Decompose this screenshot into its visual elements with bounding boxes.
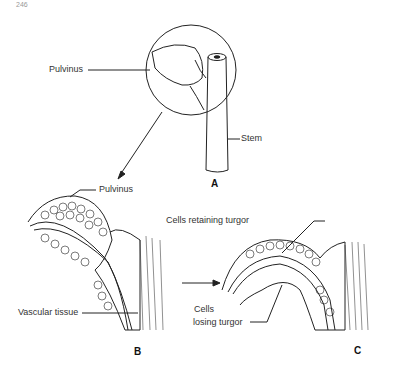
panel-label-a: A (211, 178, 218, 189)
panel-label-c: C (354, 345, 361, 356)
label-pulvinus-b: Pulvinus (99, 184, 133, 194)
panel-label-b: B (134, 346, 141, 357)
label-pulvinus-a: Pulvinus (49, 64, 83, 74)
label-cells-retaining-turgor: Cells retaining turgor (166, 215, 249, 225)
magnifier-circle (146, 25, 236, 115)
label-stem: Stem (241, 133, 262, 143)
label-losing-turgor: losing turgor (193, 317, 243, 327)
label-vascular-tissue: Vascular tissue (18, 307, 78, 317)
label-cells: Cells (194, 304, 214, 314)
stem (206, 57, 228, 172)
